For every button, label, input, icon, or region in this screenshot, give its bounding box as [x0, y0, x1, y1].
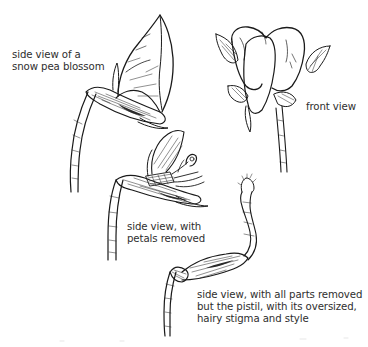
- petals-removed-label-line-2: petals removed: [127, 233, 205, 245]
- pistil-only-label-line-1: side view, with all parts removed: [197, 289, 362, 301]
- pistil-only-label: side view, with all parts removed but th…: [197, 289, 362, 325]
- side-view-label-line-1: side view of a: [12, 49, 105, 61]
- snow-pea-blossom-diagram: side view of a snow pea blossom front vi…: [0, 0, 368, 347]
- front-view-label: front view: [306, 101, 356, 113]
- bleed-through-marks: [60, 338, 348, 341]
- pistil-only-label-line-3: hairy stigma and style: [197, 313, 362, 325]
- pistil-only-label-line-2: but the pistil, with its oversized,: [197, 301, 362, 313]
- petals-removed-label-line-1: side view, with: [127, 221, 205, 233]
- front-view-blossom-drawing: [216, 27, 330, 172]
- front-view-label-line-1: front view: [306, 101, 356, 113]
- side-view-blossom-drawing: [70, 15, 173, 192]
- side-view-label: side view of a snow pea blossom: [12, 49, 105, 73]
- side-view-label-line-2: snow pea blossom: [12, 61, 105, 73]
- petals-removed-label: side view, with petals removed: [127, 221, 205, 245]
